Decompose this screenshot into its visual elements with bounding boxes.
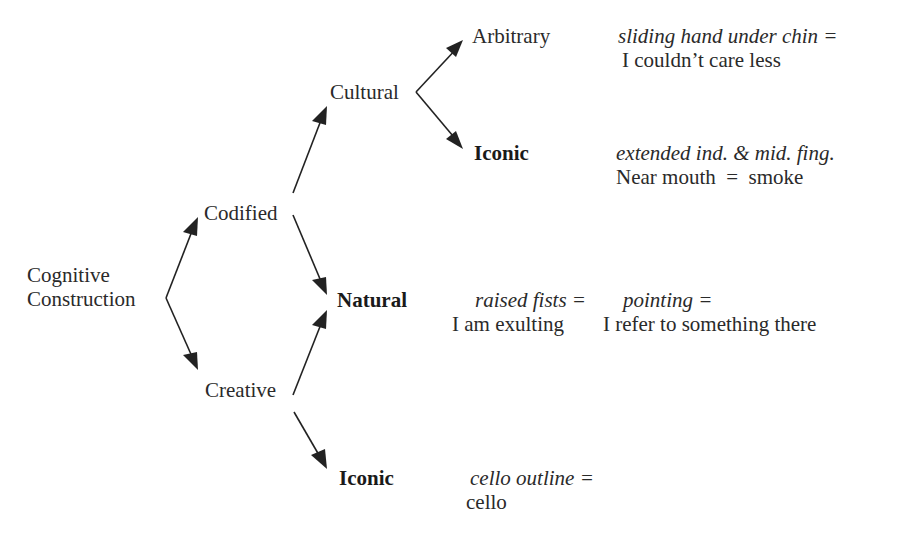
arrowhead-icon (312, 106, 327, 125)
node-iconic-creative: Iconic (339, 466, 394, 490)
example-meaning: I am exulting (452, 312, 586, 336)
example-gesture: sliding hand under chin = (618, 24, 838, 48)
arrow-root-to-creative (166, 298, 194, 361)
example-arbitrary: sliding hand under chin = I couldn’t car… (618, 24, 838, 72)
arrow-root-to-codified (166, 226, 194, 298)
arrowhead-icon (446, 40, 463, 57)
arrowhead-icon (312, 310, 327, 329)
example-iconic-cultural: extended ind. & mid. fing. Near mouth = … (616, 141, 835, 189)
example-gesture: raised fists = (452, 288, 586, 312)
example-meaning: I couldn’t care less (618, 48, 838, 72)
example-gesture: cello outline = (466, 466, 594, 490)
example-meaning: Near mouth = smoke (616, 165, 835, 189)
arrows-layer (0, 0, 921, 535)
example-gesture: pointing = (603, 288, 816, 312)
arrow-cultural-to-arbitrary (416, 47, 458, 92)
example-iconic-creative: cello outline = cello (466, 466, 594, 514)
node-arbitrary: Arbitrary (472, 24, 550, 48)
arrow-codified-to-natural (293, 215, 323, 286)
example-natural-2: pointing = I refer to something there (603, 288, 816, 336)
node-cognitive-construction: Cognitive Construction (27, 263, 136, 311)
arrow-creative-to-natural (293, 319, 323, 395)
node-iconic-cultural: Iconic (474, 141, 529, 165)
arrowhead-icon (183, 217, 198, 236)
arrowhead-icon (446, 131, 463, 149)
example-gesture: extended ind. & mid. fing. (616, 141, 835, 165)
arrowhead-icon (312, 277, 327, 295)
node-cultural: Cultural (330, 80, 399, 104)
arrow-codified-to-cultural (293, 115, 323, 193)
node-codified: Codified (204, 201, 278, 225)
node-label: Construction (27, 287, 136, 311)
example-meaning: I refer to something there (603, 312, 816, 336)
example-meaning: cello (466, 490, 594, 514)
node-creative: Creative (205, 378, 276, 402)
node-natural: Natural (337, 288, 407, 312)
node-label: Cognitive (27, 263, 136, 287)
example-natural-1: raised fists = I am exulting (452, 288, 586, 336)
arrowhead-icon (311, 449, 327, 469)
arrowhead-icon (183, 352, 198, 370)
